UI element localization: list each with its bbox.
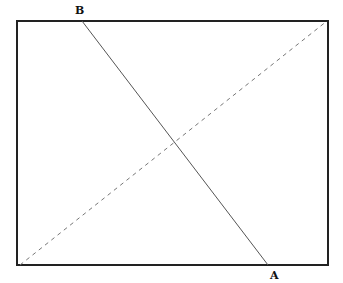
diagram-canvas: B A bbox=[0, 0, 343, 283]
rectangle bbox=[17, 21, 328, 265]
label-a: A bbox=[269, 269, 279, 282]
dashed-diagonal bbox=[20, 21, 327, 265]
segment-ba bbox=[82, 21, 268, 265]
label-b: B bbox=[75, 4, 84, 17]
